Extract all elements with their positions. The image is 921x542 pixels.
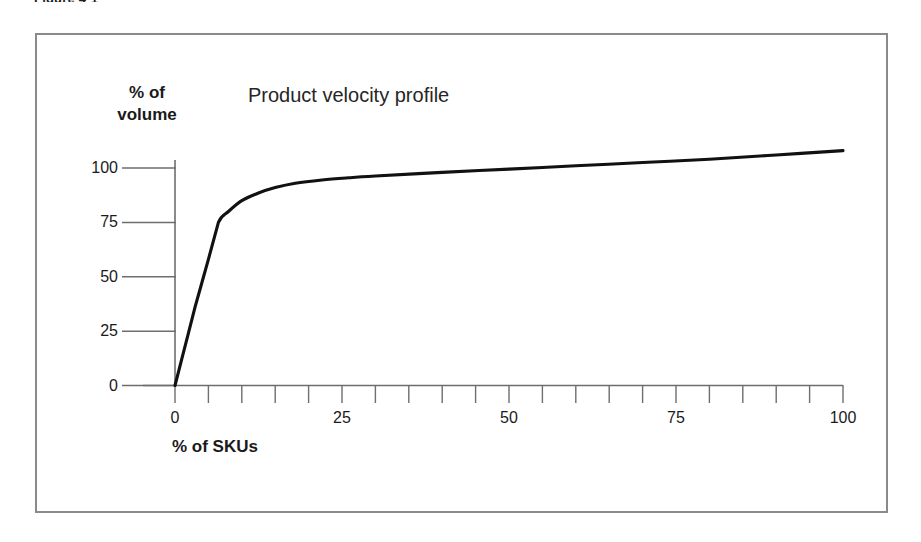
y-tick-label: 25 (70, 323, 118, 339)
y-tick-label: 50 (70, 269, 118, 285)
y-tick-label: 75 (70, 214, 118, 230)
plot-area (0, 0, 921, 542)
x-tick-label: 0 (145, 410, 205, 426)
y-tick-label: 0 (70, 378, 118, 394)
velocity-curve (175, 151, 843, 386)
y-axis-ticks (122, 168, 176, 386)
axis-lines (143, 160, 843, 386)
x-tick-label: 50 (479, 410, 539, 426)
product-velocity-chart: Product velocity profile % ofvolume % of… (0, 0, 921, 542)
x-tick-label: 75 (646, 410, 706, 426)
x-tick-label: 100 (813, 410, 873, 426)
x-axis-ticks (175, 385, 843, 403)
x-tick-label: 25 (312, 410, 372, 426)
y-tick-label: 100 (70, 160, 118, 176)
